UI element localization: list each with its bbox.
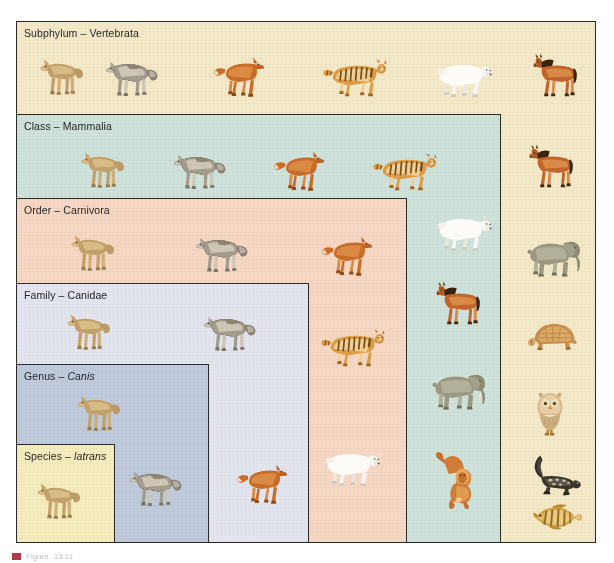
rank-dash: – xyxy=(56,289,68,301)
rank-taxon: Carnivora xyxy=(63,204,109,216)
caption-label: Figure xyxy=(26,552,49,561)
rank-label-genus: Genus – Canis xyxy=(24,370,95,383)
caption-marker-icon xyxy=(12,553,21,560)
rank-taxon: Canidae xyxy=(68,289,108,301)
rank-name: Order xyxy=(24,204,51,216)
rank-label-species: Species – latrans xyxy=(24,450,106,463)
rank-dash: – xyxy=(51,120,63,132)
taxonomic-hierarchy-figure: Subphylum – VertebrataClass – MammaliaOr… xyxy=(0,0,614,563)
rank-box-species: Species – latrans xyxy=(16,444,115,543)
rank-name: Family xyxy=(24,289,56,301)
rank-taxon: Vertebrata xyxy=(89,27,138,39)
rank-label-subphylum: Subphylum – Vertebrata xyxy=(24,27,139,40)
rank-name: Genus xyxy=(24,370,55,382)
rank-name: Species xyxy=(24,450,62,462)
rank-name: Subphylum xyxy=(24,27,77,39)
rank-dash: – xyxy=(55,370,67,382)
rank-label-class: Class – Mammalia xyxy=(24,120,112,133)
rank-dash: – xyxy=(62,450,74,462)
rank-taxon: Canis xyxy=(67,370,94,382)
rank-label-family: Family – Canidae xyxy=(24,289,107,302)
rank-taxon: latrans xyxy=(74,450,106,462)
rank-dash: – xyxy=(51,204,63,216)
figure-caption: Figure 13.11 xyxy=(12,552,73,561)
rank-label-order: Order – Carnivora xyxy=(24,204,110,217)
rank-name: Class xyxy=(24,120,51,132)
rank-taxon: Mammalia xyxy=(63,120,112,132)
caption-number: 13.11 xyxy=(54,552,73,561)
rank-dash: – xyxy=(77,27,89,39)
